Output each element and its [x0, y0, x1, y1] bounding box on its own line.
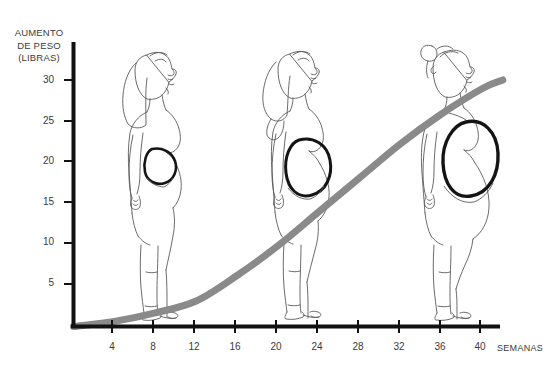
figure-second-trimester	[263, 51, 329, 319]
uterus-detail-third	[444, 183, 493, 202]
uterus-outline-second	[286, 139, 331, 196]
figure-first-trimester	[123, 52, 182, 320]
uterus-outline-third	[443, 121, 498, 196]
uterus-outline-first	[144, 149, 176, 184]
weight-gain-curve	[74, 80, 503, 327]
